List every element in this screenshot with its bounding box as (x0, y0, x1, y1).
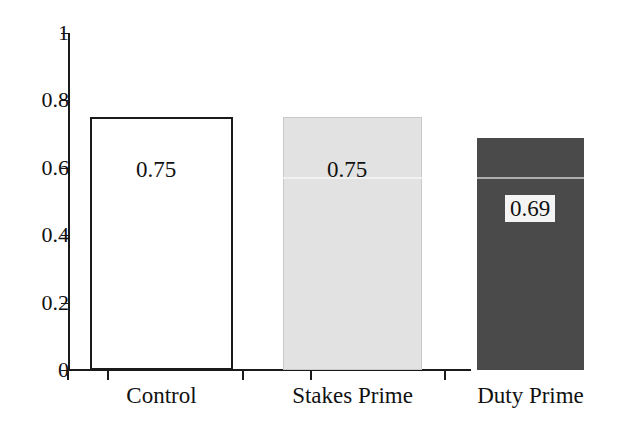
y-tick-label-1: 0.2 (25, 292, 69, 314)
category-label-control: Control (90, 384, 233, 407)
x-tick-mark-2 (242, 369, 244, 380)
y-tick-label-3: 0.6 (25, 157, 69, 179)
y-tick-label-2: 0.4 (25, 224, 69, 246)
bar-value-control: 0.75 (136, 158, 176, 181)
x-tick-mark-4 (444, 369, 446, 380)
category-label-duty-prime: Duty Prime (477, 384, 584, 407)
bar-control (90, 117, 233, 370)
bar-duty-prime (477, 138, 584, 370)
y-tick-label-4: 0.8 (25, 89, 69, 111)
x-tick-mark-1 (107, 369, 109, 380)
y-axis-line (68, 33, 70, 371)
bar-chart: 0 0.2 0.4 0.6 0.8 1 0.75 0.75 0.69 Contr… (0, 0, 620, 427)
y-tick-label-0: 0 (25, 359, 69, 381)
y-tick-label-5: 1 (25, 22, 69, 44)
bar-value-stakes-prime: 0.75 (327, 158, 367, 181)
bar-stakes-prime (283, 117, 422, 370)
x-tick-mark-0 (67, 369, 69, 380)
category-label-stakes-prime: Stakes Prime (283, 384, 422, 407)
bar-value-duty-prime: 0.69 (505, 195, 555, 222)
x-tick-mark-3 (310, 369, 312, 380)
